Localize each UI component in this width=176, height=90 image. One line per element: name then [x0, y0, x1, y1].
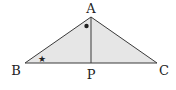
label-c: C	[159, 63, 169, 78]
angle-mark-dot-icon	[84, 24, 88, 28]
angle-mark-star-icon: ★	[38, 54, 46, 64]
label-p: P	[87, 67, 96, 82]
triangle-diagram: ★ A B C P	[0, 0, 176, 90]
label-a: A	[85, 1, 96, 16]
label-b: B	[11, 63, 21, 78]
